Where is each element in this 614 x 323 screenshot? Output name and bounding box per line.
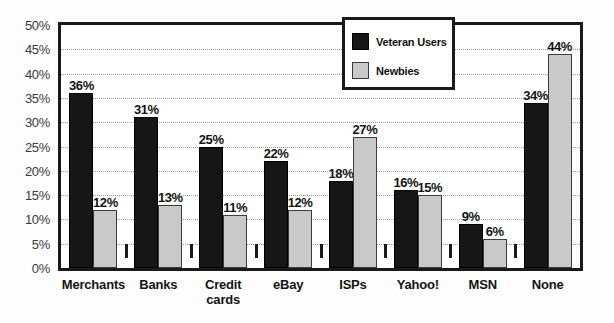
legend-swatch-icon-newbies <box>352 62 369 79</box>
bar-veteran-users: 18% <box>329 181 353 268</box>
legend-label-newbies: Newbies <box>376 65 419 77</box>
x-category-label: eBay <box>273 277 303 292</box>
bar-newbies: 27% <box>353 137 377 268</box>
bar-value-label: 13% <box>158 190 183 205</box>
y-tick-label: 40% <box>25 66 50 81</box>
x-axis-tick <box>190 244 193 258</box>
y-axis: 0%5%10%15%20%25%30%35%40%45%50% <box>0 0 56 323</box>
bar-newbies: 13% <box>158 205 182 268</box>
x-category-label: Banks <box>139 277 177 292</box>
bar-value-label: 27% <box>353 122 378 137</box>
y-tick-label: 20% <box>25 163 50 178</box>
bar-value-label: 16% <box>393 175 418 190</box>
legend-swatch-icon-veteran-users <box>352 33 369 50</box>
x-category-label: Merchants <box>62 277 125 292</box>
bar-group: 36%12% <box>69 25 117 268</box>
x-axis-tick <box>384 244 387 258</box>
y-tick-label: 30% <box>25 115 50 130</box>
y-tick-label: 45% <box>25 42 50 57</box>
plot-inner: 36%12%31%13%25%11%22%12%18%27%16%15%9%6%… <box>61 25 580 268</box>
legend-item-veteran-users: Veteran Users <box>352 27 446 56</box>
bar-group: 22%12% <box>264 25 312 268</box>
bar-value-label: 34% <box>523 88 548 103</box>
x-axis-tick <box>255 244 258 258</box>
bar-newbies: 11% <box>223 215 247 268</box>
x-category-label: ISPs <box>339 277 366 292</box>
bar-veteran-users: 31% <box>134 117 158 268</box>
legend: Veteran Users Newbies <box>342 17 455 90</box>
y-tick-label: 15% <box>25 188 50 203</box>
y-tick-label: 50% <box>25 18 50 33</box>
bar-group: 31%13% <box>134 25 182 268</box>
x-axis-tick <box>320 244 323 258</box>
bar-group: 25%11% <box>199 25 247 268</box>
bar-value-label: 6% <box>486 224 504 239</box>
x-axis-tick <box>125 244 128 258</box>
legend-label-veteran-users: Veteran Users <box>376 36 447 48</box>
x-category-label: Yahoo! <box>397 277 439 292</box>
bar-value-label: 12% <box>93 195 118 210</box>
bar-value-label: 44% <box>547 39 572 54</box>
bar-value-label: 22% <box>264 146 289 161</box>
bar-newbies: 15% <box>418 195 442 268</box>
bar-value-label: 31% <box>134 102 159 117</box>
y-tick-label: 10% <box>25 212 50 227</box>
bar-group: 9%6% <box>459 25 507 268</box>
bar-veteran-users: 36% <box>69 93 93 268</box>
x-category-label: Credit cards <box>205 277 241 307</box>
y-tick-label: 25% <box>25 139 50 154</box>
bar-veteran-users: 9% <box>459 224 483 268</box>
bar-veteran-users: 16% <box>394 190 418 268</box>
x-category-label: MSN <box>469 277 497 292</box>
bar-veteran-users: 22% <box>264 161 288 268</box>
bar-newbies: 44% <box>548 54 572 268</box>
bar-value-label: 25% <box>199 132 224 147</box>
bar-newbies: 12% <box>93 210 117 268</box>
bar-value-label: 11% <box>223 200 247 215</box>
bar-veteran-users: 34% <box>524 103 548 268</box>
legend-item-newbies: Newbies <box>352 56 446 85</box>
bar-chart: 0%5%10%15%20%25%30%35%40%45%50% 36%12%31… <box>0 0 614 323</box>
bar-veteran-users: 25% <box>199 147 223 269</box>
bar-group: 34%44% <box>524 25 572 268</box>
plot-area: 36%12%31%13%25%11%22%12%18%27%16%15%9%6%… <box>58 22 583 271</box>
x-axis-tick <box>449 244 452 258</box>
bar-value-label: 36% <box>69 78 94 93</box>
x-axis-tick <box>514 244 517 258</box>
y-tick-label: 0% <box>32 261 50 276</box>
x-category-label: None <box>532 277 564 292</box>
y-tick-label: 5% <box>32 236 50 251</box>
bar-value-label: 9% <box>462 209 480 224</box>
bar-value-label: 12% <box>288 195 313 210</box>
bar-newbies: 12% <box>288 210 312 268</box>
y-tick-label: 35% <box>25 90 50 105</box>
bar-value-label: 18% <box>329 166 354 181</box>
bar-value-label: 15% <box>417 180 442 195</box>
bar-newbies: 6% <box>483 239 507 268</box>
